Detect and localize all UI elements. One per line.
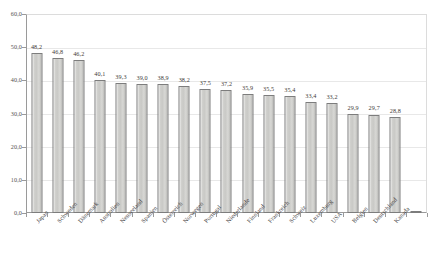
bar[interactable] xyxy=(94,80,105,213)
x-axis-tick-mark xyxy=(237,213,238,217)
bar-slot xyxy=(364,14,385,213)
x-axis-tick-mark xyxy=(89,213,90,217)
bar-slot xyxy=(110,14,131,213)
x-axis-tick-mark xyxy=(110,213,111,217)
bar[interactable] xyxy=(284,96,295,213)
x-axis-tick-mark xyxy=(364,213,365,217)
x-axis-tick-mark xyxy=(385,213,386,217)
bar-value-label: 46,2 xyxy=(73,51,84,57)
bar-value-label: 48,2 xyxy=(31,44,42,50)
x-axis-tick-mark xyxy=(321,213,322,217)
x-axis-tick-mark xyxy=(300,213,301,217)
bar-value-label: 40,1 xyxy=(94,71,105,77)
bar[interactable] xyxy=(242,94,253,213)
x-axis-tick-mark xyxy=(258,213,259,217)
bar[interactable] xyxy=(369,115,380,214)
bar[interactable] xyxy=(158,84,169,213)
bar[interactable] xyxy=(137,84,148,213)
y-axis-tick-label: 60,0 xyxy=(0,11,22,17)
bar-slot xyxy=(279,14,300,213)
bar-value-label: 39,3 xyxy=(115,74,126,80)
bar-slot xyxy=(47,14,68,213)
bar[interactable] xyxy=(221,90,232,213)
bar[interactable] xyxy=(411,211,422,213)
bar-chart: 0,010,020,030,040,050,060,0 48,246,846,2… xyxy=(0,0,434,272)
bar-slot xyxy=(216,14,237,213)
bar[interactable] xyxy=(31,53,42,213)
x-axis-tick-mark xyxy=(406,213,407,217)
bar[interactable] xyxy=(305,102,316,213)
y-axis-tick-label: 50,0 xyxy=(0,44,22,50)
bar-value-label: 28,8 xyxy=(390,108,401,114)
x-axis-tick-mark xyxy=(132,213,133,217)
bar-slot xyxy=(132,14,153,213)
bar-slot xyxy=(258,14,279,213)
bar-value-label: 33,2 xyxy=(326,94,337,100)
bar-slot xyxy=(195,14,216,213)
bar-value-label: 29,9 xyxy=(348,105,359,111)
x-axis-tick-mark xyxy=(47,213,48,217)
y-axis-tick-label: 20,0 xyxy=(0,144,22,150)
bar-value-label: 33,4 xyxy=(305,93,316,99)
bar-value-label: 35,4 xyxy=(284,87,295,93)
bar[interactable] xyxy=(200,89,211,213)
x-axis-tick-mark xyxy=(68,213,69,217)
bar-value-label: 38,9 xyxy=(158,75,169,81)
bar-value-label: 35,9 xyxy=(242,85,253,91)
bar[interactable] xyxy=(52,58,63,213)
bar-slot xyxy=(300,14,321,213)
bar[interactable] xyxy=(179,86,190,213)
bar[interactable] xyxy=(348,114,359,213)
bar[interactable] xyxy=(73,60,84,213)
bar[interactable] xyxy=(263,95,274,213)
bar-value-label: 46,8 xyxy=(52,49,63,55)
y-axis-tick-label: 40,0 xyxy=(0,77,22,83)
x-axis-tick-mark xyxy=(153,213,154,217)
x-axis-tick-mark xyxy=(26,213,27,217)
bar-value-label: 37,5 xyxy=(200,80,211,86)
bar-slot xyxy=(343,14,364,213)
x-axis-tick-mark xyxy=(174,213,175,217)
x-axis-tick-mark xyxy=(216,213,217,217)
bar-value-label: 29,7 xyxy=(369,105,380,111)
bar-slot xyxy=(174,14,195,213)
bar-value-label: 38,2 xyxy=(179,77,190,83)
y-axis-tick-label: 30,0 xyxy=(0,111,22,117)
bar[interactable] xyxy=(115,83,126,213)
y-axis-tick-label: 10,0 xyxy=(0,177,22,183)
bar-slot xyxy=(153,14,174,213)
bar-slot xyxy=(321,14,342,213)
y-axis-tick-label: 0,0 xyxy=(0,210,22,216)
x-axis-tick-mark xyxy=(195,213,196,217)
bar-slot xyxy=(68,14,89,213)
bar-slot xyxy=(237,14,258,213)
bar-slot xyxy=(89,14,110,213)
x-axis-tick-mark xyxy=(427,213,428,217)
bar-value-label: 39,0 xyxy=(136,75,147,81)
bar-value-label: 37,2 xyxy=(221,81,232,87)
x-axis-tick-mark xyxy=(343,213,344,217)
bar-value-label: 35,5 xyxy=(263,86,274,92)
bar-slot xyxy=(406,14,427,213)
x-axis-tick-mark xyxy=(279,213,280,217)
